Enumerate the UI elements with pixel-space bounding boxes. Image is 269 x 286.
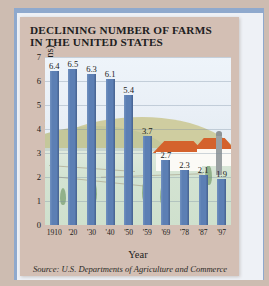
wall <box>197 149 231 166</box>
gridline <box>45 57 231 58</box>
y-tick-label: 0 <box>27 220 41 230</box>
y-tick-label: 1 <box>27 196 41 206</box>
title-line-1: DECLINING NUMBER OF FARMS <box>30 24 235 36</box>
y-tick-label: 2 <box>27 172 41 182</box>
x-axis-label: Year <box>45 249 231 260</box>
page-title: DECLINING NUMBER OF FARMS IN THE UNITED … <box>30 24 235 49</box>
bar-value-label: 3.7 <box>136 126 158 136</box>
bar <box>161 160 170 225</box>
bar <box>68 69 77 225</box>
y-tick-label: 6 <box>27 76 41 86</box>
y-tick-label: 4 <box>27 124 41 134</box>
bar <box>199 175 208 225</box>
bar <box>124 95 133 225</box>
bar-value-label: 6.1 <box>99 69 121 79</box>
tree <box>60 188 66 205</box>
farmhouse-right <box>194 138 231 167</box>
y-tick-label: 3 <box>27 148 41 158</box>
roof <box>194 138 231 150</box>
y-tick-label: 5 <box>27 100 41 110</box>
bar-value-label: 2.7 <box>155 150 177 160</box>
silo-cap <box>216 131 222 136</box>
bar <box>143 136 152 225</box>
bar <box>180 170 189 225</box>
plot-area <box>45 57 231 225</box>
bar <box>217 179 226 225</box>
bar <box>106 79 115 225</box>
bar-value-label: 5.4 <box>118 85 140 95</box>
x-tick-label: '97 <box>210 228 234 237</box>
bar <box>87 74 96 225</box>
bar-value-label: 1.9 <box>211 169 233 179</box>
chart-card: DECLINING NUMBER OF FARMS IN THE UNITED … <box>20 17 239 276</box>
title-line-2: IN THE UNITED STATES <box>30 36 235 48</box>
bar <box>50 71 59 225</box>
source-note: Source: U.S. Departments of Agriculture … <box>26 264 234 274</box>
y-tick-label: 7 <box>27 52 41 62</box>
